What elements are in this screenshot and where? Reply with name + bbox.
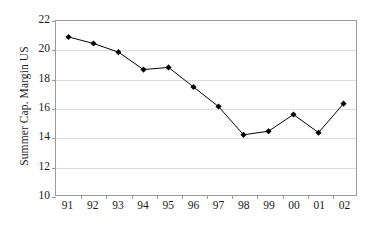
y-tick-label: 22: [26, 14, 50, 26]
data-point-marker: [115, 49, 121, 55]
y-tick-label: 16: [26, 102, 50, 114]
y-tick-label: 12: [26, 161, 50, 173]
plot-area: [55, 20, 357, 196]
x-tick-mark: [207, 195, 208, 199]
y-tick-label: 18: [26, 73, 50, 85]
y-tick-mark: [52, 138, 56, 139]
x-tick-mark: [81, 195, 82, 199]
x-tick-mark: [182, 195, 183, 199]
y-tick-mark: [52, 197, 56, 198]
y-tick-mark: [52, 21, 56, 22]
data-series-line: [56, 21, 356, 195]
y-tick-mark: [52, 80, 56, 81]
line-chart: Summer Cap. Margin US 10121416182022 919…: [0, 0, 377, 234]
y-axis-tick-labels: 10121416182022: [26, 0, 50, 234]
x-tick-mark: [157, 195, 158, 199]
y-tick-mark: [52, 109, 56, 110]
y-tick-label: 10: [26, 190, 50, 202]
y-tick-mark: [52, 50, 56, 51]
data-point-marker: [140, 67, 146, 73]
data-point-marker: [90, 40, 96, 46]
x-tick-mark: [232, 195, 233, 199]
data-point-marker: [265, 128, 271, 134]
x-tick-mark: [132, 195, 133, 199]
series-line: [68, 37, 343, 135]
x-tick-mark: [106, 195, 107, 199]
x-axis-tick-labels: 919293949596979899000102: [55, 200, 357, 222]
data-point-marker: [65, 34, 71, 40]
x-tick-mark: [308, 195, 309, 199]
y-tick-mark: [52, 168, 56, 169]
y-tick-label: 20: [26, 43, 50, 55]
x-tick-mark: [333, 195, 334, 199]
x-tick-label: 02: [329, 200, 359, 212]
y-tick-label: 14: [26, 131, 50, 143]
x-tick-mark: [283, 195, 284, 199]
x-tick-mark: [257, 195, 258, 199]
